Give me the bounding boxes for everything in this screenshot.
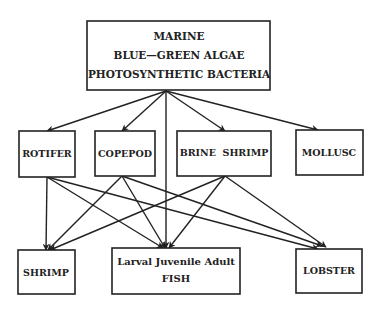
node-fish: Larval Juvenile Adult FISH: [112, 248, 240, 294]
edge-brine-shrimp-to-lobster: [225, 176, 326, 247]
food-web-diagram: MARINE BLUE—GREEN ALGAE PHOTOSYNTHETIC B…: [0, 0, 381, 310]
node-copepod: COPEPOD: [95, 131, 155, 176]
node-shrimp: SHRIMP: [18, 250, 75, 294]
node-fish-line-2: FISH: [162, 273, 190, 284]
node-marine-line-1: MARINE: [153, 30, 204, 42]
edge-marine-to-brine-shrimp: [166, 91, 225, 131]
node-shrimp-label: SHRIMP: [23, 267, 69, 278]
edge-brine-shrimp-to-shrimp: [50, 176, 225, 250]
node-brine-shrimp-label: BRINE SHRIMP: [180, 147, 269, 158]
node-fish-line-1: Larval Juvenile Adult: [117, 256, 235, 267]
node-lobster: LOBSTER: [296, 249, 362, 293]
node-rotifer-label: ROTIFER: [22, 148, 72, 159]
edge-marine-to-copepod: [122, 91, 166, 131]
node-lobster-label: LOBSTER: [303, 265, 355, 276]
edge-rotifer-to-shrimp: [46, 177, 47, 250]
node-marine-line-2: BLUE—GREEN ALGAE: [114, 49, 245, 61]
node-mollusc: MOLLUSC: [296, 130, 363, 175]
node-marine-line-3: PHOTOSYNTHETIC BACTERIA: [88, 68, 271, 80]
nodes-layer: MARINE BLUE—GREEN ALGAE PHOTOSYNTHETIC B…: [18, 21, 363, 294]
edge-marine-to-mollusc: [166, 91, 318, 130]
node-brine-shrimp: BRINE SHRIMP: [177, 131, 271, 176]
edge-rotifer-to-fish: [47, 177, 163, 248]
edge-copepod-to-lobster: [122, 176, 322, 246]
node-copepod-label: COPEPOD: [98, 148, 152, 159]
edge-marine-to-rotifer: [47, 91, 166, 131]
node-rotifer: ROTIFER: [19, 131, 75, 177]
edge-copepod-to-fish: [122, 176, 165, 248]
node-marine: MARINE BLUE—GREEN ALGAE PHOTOSYNTHETIC B…: [87, 21, 271, 90]
node-mollusc-label: MOLLUSC: [302, 147, 357, 158]
